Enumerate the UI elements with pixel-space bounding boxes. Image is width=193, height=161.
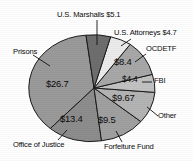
value-fbi: $4.4	[122, 74, 138, 84]
label-us-attorneys: U.S. Attorneys $4.7	[114, 29, 177, 38]
value-other: $9.67	[112, 93, 134, 103]
value-ocdetf: $8.4	[114, 57, 131, 67]
value-forfeiture-fund: $9.5	[98, 115, 115, 125]
pie-chart: U.S. Marshalls $5.1 U.S. Attorneys $4.7 …	[0, 0, 193, 161]
value-prisons: $26.7	[46, 79, 68, 89]
label-forfeiture-fund: Forfeiture Fund	[104, 143, 154, 152]
label-fbi: FBI	[154, 77, 165, 86]
label-ocdetf: OCDETF	[146, 45, 176, 54]
label-office-of-justice: Office of Justice	[13, 141, 64, 150]
label-prisons: Prisons	[13, 48, 37, 57]
label-other: Other	[158, 112, 176, 121]
value-office-of-justice: $13.4	[60, 114, 82, 124]
label-us-marshalls: U.S. Marshalls $5.1	[57, 11, 120, 20]
